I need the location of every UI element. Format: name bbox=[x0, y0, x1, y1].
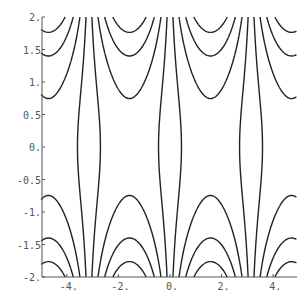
x-tick-label: 2. bbox=[218, 281, 230, 292]
contour-lines bbox=[41, 17, 296, 277]
y-tick-label: 1. bbox=[29, 77, 41, 88]
x-tick-label: 0. bbox=[166, 281, 178, 292]
x-tick-label: 4. bbox=[269, 281, 281, 292]
y-axis-ticks: 2.1.51.0.50.-0.5-1.-1.5-2. bbox=[17, 12, 45, 283]
contour-plot: -4.-2.0.2.4. 2.1.51.0.50.-0.5-1.-1.5-2. bbox=[0, 0, 303, 302]
y-tick-label: 2. bbox=[29, 12, 41, 23]
y-tick-label: -0.5 bbox=[17, 175, 41, 186]
y-tick-label: -1. bbox=[23, 207, 41, 218]
y-tick-label: 1.5 bbox=[23, 45, 41, 56]
y-tick-label: 0.5 bbox=[23, 110, 41, 121]
contour-line bbox=[113, 17, 297, 277]
x-tick-label: -2. bbox=[111, 281, 129, 292]
y-tick-label: 0. bbox=[29, 142, 41, 153]
y-tick-label: -1.5 bbox=[17, 240, 41, 251]
contour-line bbox=[41, 17, 227, 277]
contour-line bbox=[77, 17, 248, 277]
contour-line bbox=[92, 17, 263, 277]
contour-line bbox=[41, 17, 235, 277]
x-tick-label: -4. bbox=[60, 281, 78, 292]
y-tick-label: -2. bbox=[23, 272, 41, 283]
axes bbox=[42, 17, 297, 277]
